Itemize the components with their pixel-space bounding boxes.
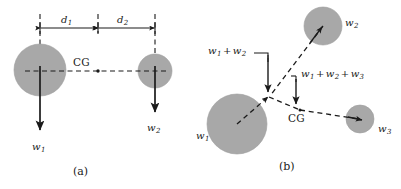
cg-label-panel-a: CG	[73, 57, 90, 68]
dimension-label-d1: d1	[61, 15, 72, 27]
cg-label-panel-b: CG	[288, 113, 305, 124]
cg-figure: d1 d2 CG w1 w2 (a) w1+w2 w1+w2+w3 CG w1 …	[0, 0, 401, 189]
resultant-label-w1-plus-w2: w1+w2	[208, 46, 246, 58]
weight-label-w1-a: w1	[32, 142, 45, 154]
panel-a-graphics	[14, 14, 172, 130]
weight-label-w3-b: w3	[378, 124, 391, 136]
figure-canvas	[0, 0, 401, 189]
weight-label-w2-a: w2	[147, 123, 160, 135]
leader-elbow-w1w2	[254, 53, 268, 58]
weight-label-w1-b: w1	[196, 131, 209, 143]
cg-point-marker-a	[96, 69, 99, 72]
weight-label-w2-b: w2	[345, 18, 358, 30]
caption-panel-b: (b)	[279, 161, 295, 172]
resultant-label-w1-plus-w2-plus-w3: w1+w2+w3	[301, 69, 364, 81]
dimension-label-d2: d2	[117, 15, 128, 27]
caption-panel-a: (a)	[73, 166, 88, 177]
